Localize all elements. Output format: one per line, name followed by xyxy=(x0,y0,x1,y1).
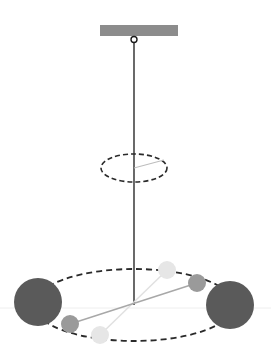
large-sphere-left xyxy=(14,278,62,326)
hook-icon xyxy=(131,37,137,43)
small-sphere-initial-back xyxy=(158,261,176,279)
large-sphere-right xyxy=(206,281,254,329)
small-sphere-initial-front xyxy=(91,326,109,344)
torsion-balance-diagram xyxy=(0,0,271,363)
small-sphere-current-right xyxy=(188,274,206,292)
small-sphere-current-left xyxy=(61,315,79,333)
diagram-canvas xyxy=(0,0,271,363)
support-bar xyxy=(100,25,178,36)
twist-angle-line xyxy=(134,160,164,168)
